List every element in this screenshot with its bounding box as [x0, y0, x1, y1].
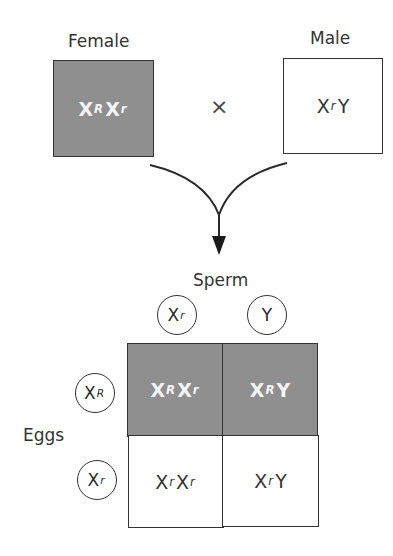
egg-gamete-xR: XR — [75, 373, 115, 413]
egg-gamete-xr: Xr — [77, 460, 117, 500]
punnett-cell-xRxr: XRXr — [127, 343, 224, 437]
punnett-cell-xry: XrY — [222, 435, 319, 527]
cross-symbol: × — [210, 94, 228, 119]
male-genotype-box: XrY — [283, 58, 383, 154]
punnett-cell-xrxr: XrXr — [128, 435, 224, 528]
punnett-cell-xRy: XRY — [222, 343, 318, 437]
sperm-gamete-y: Y — [247, 295, 287, 335]
female-genotype-box: XRXr — [53, 60, 154, 157]
sperm-label: Sperm — [193, 270, 248, 290]
eggs-label: Eggs — [23, 425, 64, 445]
male-label: Male — [310, 28, 350, 48]
female-label: Female — [68, 31, 129, 51]
sperm-gamete-xr: Xr — [157, 295, 197, 335]
